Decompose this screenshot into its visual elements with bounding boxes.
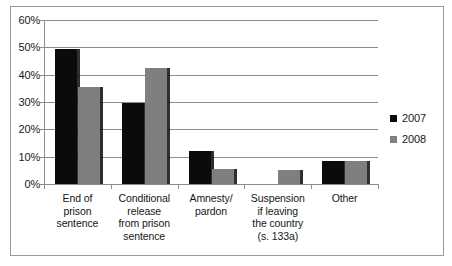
x-category-label: Conditionalreleasefrom prisonsentence <box>111 192 178 242</box>
x-category-label: Suspensionif leavingthe country(s. 133a) <box>244 192 311 242</box>
x-category-label-line: End of <box>44 192 111 205</box>
bar-2008-1 <box>145 68 167 184</box>
x-category-label: Amnesty/pardon <box>178 192 245 217</box>
x-tick-mark <box>111 184 112 189</box>
y-tick-label: 40% <box>19 69 40 81</box>
plot-area <box>44 20 378 184</box>
x-tick-mark <box>178 184 179 189</box>
bar-2008-3 <box>278 170 300 184</box>
gridline <box>44 20 378 21</box>
x-category-label-line: sentence <box>44 217 111 230</box>
bar-2008-0 <box>78 87 100 184</box>
x-tick-mark <box>311 184 312 189</box>
x-category-label: End ofprisonsentence <box>44 192 111 230</box>
y-tick-label: 0% <box>25 178 41 190</box>
legend-swatch-2008 <box>390 136 397 143</box>
gridline <box>44 75 378 76</box>
x-category-label-line: if leaving <box>244 205 311 218</box>
legend-label-2008: 2008 <box>402 133 426 145</box>
x-category-label-line: Amnesty/ <box>178 192 245 205</box>
x-tick-mark <box>44 184 45 189</box>
y-tick-label: 20% <box>19 123 40 135</box>
x-category-label-line: Conditional <box>111 192 178 205</box>
legend-item: 2008 <box>390 133 440 145</box>
bar-2007-2 <box>189 151 211 184</box>
legend-swatch-2007 <box>390 115 397 122</box>
bar-2007-0 <box>55 49 77 184</box>
legend-item: 2007 <box>390 112 440 124</box>
x-category-label-line: Suspension <box>244 192 311 205</box>
x-category-label-line: from prison <box>111 217 178 230</box>
legend-label-2007: 2007 <box>402 112 426 124</box>
x-tick-mark <box>244 184 245 189</box>
x-category-label-line: (s. 133a) <box>244 230 311 243</box>
x-tick-mark <box>378 184 379 189</box>
x-category-label-line: prison <box>44 205 111 218</box>
x-category-label: Other <box>311 192 378 205</box>
gridline <box>44 184 378 185</box>
gridline <box>44 47 378 48</box>
x-category-label-line: the country <box>244 217 311 230</box>
y-tick-label: 10% <box>19 151 40 163</box>
y-tick-label: 60% <box>19 14 40 26</box>
bar-2007-4 <box>322 161 344 184</box>
x-category-label-line: release <box>111 205 178 218</box>
bar-chart: 0%10%20%30%40%50%60% End ofprisonsentenc… <box>0 0 452 266</box>
y-tick-label: 30% <box>19 96 40 108</box>
bar-2008-2 <box>212 169 234 184</box>
bar-2008-4 <box>345 161 367 184</box>
x-category-label-line: sentence <box>111 230 178 243</box>
x-category-label-line: Other <box>311 192 378 205</box>
bar-2007-1 <box>122 103 144 184</box>
y-tick-label: 50% <box>19 41 40 53</box>
legend: 2007 2008 <box>390 112 440 154</box>
x-category-label-line: pardon <box>178 205 245 218</box>
